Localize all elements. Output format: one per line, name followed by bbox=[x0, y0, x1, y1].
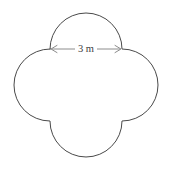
dimension-label: 3 m bbox=[78, 43, 94, 54]
quatrefoil-diagram: 3 m bbox=[0, 0, 170, 170]
quatrefoil-outline bbox=[14, 13, 158, 157]
geometry-figure: 3 m bbox=[0, 0, 170, 170]
